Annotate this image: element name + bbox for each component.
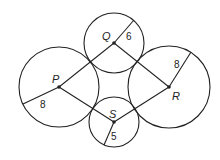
center-label-p: P (52, 73, 60, 85)
segment-pq (59, 43, 114, 87)
segment-qr (114, 43, 169, 87)
radius-label-r: 8 (174, 59, 180, 70)
center-point-q (112, 41, 116, 45)
center-point-s (112, 120, 116, 124)
radius-label-p: 8 (40, 99, 46, 110)
center-point-r (167, 85, 171, 89)
radius-label-s: 5 (111, 131, 117, 142)
radius-r (169, 52, 191, 87)
radius-label-q: 6 (126, 31, 132, 42)
circles-diagram: P8Q6R8S5 (0, 0, 220, 160)
center-label-s: S (109, 108, 117, 120)
center-label-q: Q (102, 30, 111, 42)
center-point-p (57, 85, 61, 89)
center-label-r: R (172, 90, 180, 102)
